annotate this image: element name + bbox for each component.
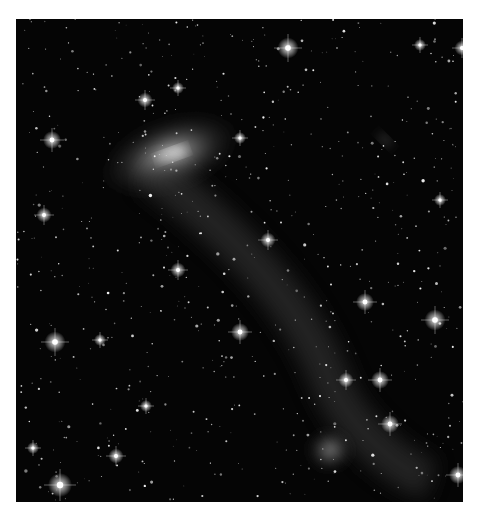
galaxies [87,94,430,480]
astronomy-image [16,19,463,502]
bright-star [446,463,463,487]
bright-star [41,328,69,356]
image-caption [100,508,465,518]
bright-star [92,332,108,348]
bright-star [412,37,428,53]
diffuse-galaxy-bottom [306,428,354,472]
bright-star [228,320,252,344]
bright-star [170,80,186,96]
bright-star [368,368,392,392]
bright-star [274,34,302,62]
bright-star [138,398,154,414]
bright-star [135,90,155,110]
bright-star [353,290,377,314]
small-elongated-galaxy [373,128,397,152]
bright-star [34,205,54,225]
bright-star [168,260,188,280]
star-field [16,19,463,502]
bright-star [432,192,448,208]
bright-star [40,128,64,152]
bright-star [421,306,449,334]
bright-star [106,446,126,466]
bright-star [25,440,41,456]
bright-star [44,469,76,501]
